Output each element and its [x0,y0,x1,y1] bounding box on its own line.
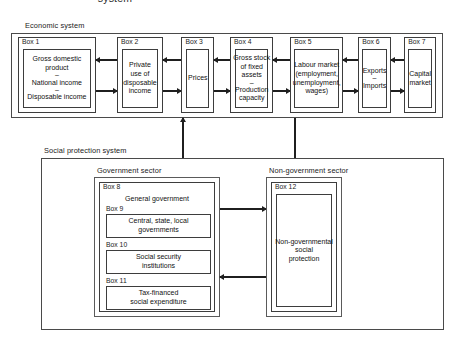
box-5-number: Box 5 [294,39,311,46]
box-5-content: Labour market (employment, unemployment,… [294,49,339,108]
box-5-line-2: (employment, [296,70,338,79]
box-1: Box 1 Gross domestic product – National … [18,37,96,113]
box-4-line-1: Gross stock [233,54,270,63]
box-2: Box 2 Private use of disposable income [117,37,163,113]
arrow-box3-to-box2 [163,56,182,64]
arrow-box4-to-box3 [214,56,230,64]
non-government-sector-label: Non-government sector [269,166,348,175]
box-9-number: Box 9 [106,206,123,213]
box-6: Box 6 Exports – Imports [358,37,391,113]
box-2-line-1: Private [129,61,151,70]
box-3: Box 3 Prices [181,37,214,113]
box-6-content: Exports – Imports [362,49,387,108]
box-5-line-1: Labour market [294,61,339,70]
box-5-line-3: unemployment, [293,79,341,88]
box-11-line-1: Tax-financed [139,289,179,298]
box-2-content: Private use of disposable income [122,49,158,108]
box-3-line-1: Prices [188,74,207,83]
figure-title: system [0,0,230,4]
box-3-content: Prices [186,49,209,108]
box-2-line-3: disposable [123,79,156,88]
arrow-box4-to-box5 [273,87,290,95]
arrow-box3-to-box4 [214,87,230,95]
government-sector-label: Government sector [97,166,162,175]
box-4-line-5: capacity [239,94,265,103]
arrow-box6-to-box7 [391,87,404,95]
arrow-box2-to-box3 [163,87,182,95]
box-12-content: Non-governmental social protection [276,194,332,307]
box-7-number: Box 7 [408,39,425,46]
box-12-line-2: social [295,246,313,255]
box-12-line-3: protection [289,255,320,264]
box-6-line-2: Imports [363,82,386,91]
arrow-government-to-non-government [220,205,266,213]
box-4: Box 4 Gross stock of fixed assets – Prod… [230,37,273,113]
box-11-content: Tax-financed social expenditure [106,286,211,310]
arrow-box7-to-box6 [391,56,404,64]
box-9: Box 9 Central, state, local governments [103,205,211,238]
box-6-number: Box 6 [362,39,379,46]
box-4-line-2: of fixed [240,63,263,72]
box-1-line-1: Gross domestic [33,55,82,64]
box-7: Box 7 Capital market [404,37,436,113]
box-10-line-1: Social security [136,253,181,262]
box-9-line-2: governments [138,226,178,235]
box-9-line-1: Central, state, local [129,217,189,226]
box-4-line-4: Production [235,86,268,95]
box-11: Box 11 Tax-financed social expenditure [103,277,211,310]
box-4-number: Box 4 [234,39,251,46]
box-8-number: Box 8 [103,184,120,191]
box-5: Box 5 Labour market (employment, unemplo… [290,37,343,113]
arrow-box6-to-box5 [343,56,358,64]
box-12-number: Box 12 [275,184,296,191]
box-2-number: Box 2 [121,39,138,46]
box-9-content: Central, state, local governments [106,214,211,238]
box-2-line-4: income [129,87,152,96]
box-1-number: Box 1 [22,39,39,46]
arrow-non-government-to-government [220,273,266,281]
arrow-box5-to-box4 [273,56,290,64]
box-7-line-1: Capital [409,70,431,79]
box-5-line-4: wages) [305,87,328,96]
arrow-box5-to-box6 [343,87,358,95]
box-12: Box 12 Non-governmental social protectio… [271,182,337,312]
box-10-line-2: institutions [142,262,175,271]
box-11-number: Box 11 [106,278,127,285]
box-1-line-4: Disposable income [27,93,86,102]
box-11-line-2: social expenditure [130,298,186,307]
box-10-content: Social security institutions [106,250,211,274]
diagram-canvas: system Economic system Box 1 Gross domes… [0,0,456,344]
box-10: Box 10 Social security institutions [103,241,211,274]
social-protection-system-label: Social protection system [44,146,127,155]
economic-system-label: Economic system [25,21,84,30]
box-4-content: Gross stock of fixed assets – Production… [235,49,268,108]
box-1-content: Gross domestic product – National income… [23,49,91,108]
box-7-content: Capital market [408,49,432,108]
box-10-number: Box 10 [106,242,127,249]
box-7-line-2: market [409,79,430,88]
arrow-box2-to-box1 [96,56,117,64]
box-2-line-2: use of [130,70,149,79]
box-3-number: Box 3 [185,39,202,46]
arrow-box1-to-box2 [96,87,117,95]
box-12-line-1: Non-governmental [275,238,333,247]
